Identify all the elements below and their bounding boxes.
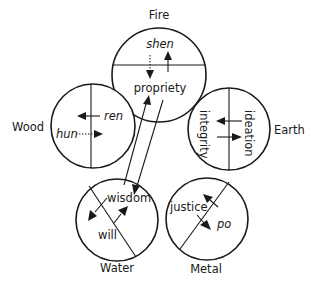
shen-label: shen xyxy=(146,37,174,51)
ren-label: ren xyxy=(104,109,123,123)
water-element: Water wisdom will xyxy=(76,179,158,275)
hun-label: hun xyxy=(56,127,78,141)
water-label: Water xyxy=(100,261,134,275)
wisdom-label: wisdom xyxy=(107,191,151,205)
integrity-label: integrity xyxy=(197,110,211,159)
propriety-label: propriety xyxy=(134,81,187,95)
wood-circle xyxy=(51,84,135,168)
ideation-label: ideation xyxy=(242,110,256,157)
metal-label: Metal xyxy=(190,262,222,276)
will-label: will xyxy=(98,228,117,242)
fire-label: Fire xyxy=(149,8,170,22)
earth-element: Earth integrity ideation xyxy=(188,88,305,170)
five-phases-diagram: Fire shen propriety Wood ren hun Earth i… xyxy=(0,0,310,281)
wood-label: Wood xyxy=(12,120,44,134)
wood-element: Wood ren hun xyxy=(12,84,135,168)
metal-circle xyxy=(166,178,248,260)
po-label: po xyxy=(216,217,231,231)
metal-element: Metal justice po xyxy=(166,178,248,276)
earth-label: Earth xyxy=(274,123,305,137)
justice-label: justice xyxy=(169,200,208,214)
